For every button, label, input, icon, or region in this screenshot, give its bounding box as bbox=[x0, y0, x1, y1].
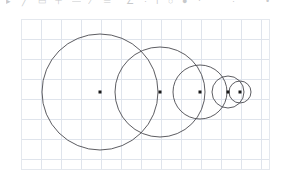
dot-tool-icon: · bbox=[144, 0, 147, 6]
line-tool-icon: ╱ bbox=[22, 0, 27, 6]
circle-tool-icon: ○ bbox=[168, 0, 173, 6]
rectangle-tool-icon: ▭ bbox=[38, 0, 47, 6]
bold-tool-icon: ● bbox=[182, 0, 187, 6]
select-tool-icon: ▸ bbox=[6, 0, 11, 6]
zoom-tool-icon: · bbox=[232, 0, 235, 6]
drawing-canvas[interactable] bbox=[21, 19, 270, 170]
angle-tool-icon: ∠ bbox=[126, 0, 134, 6]
grid-tool-icon: ⋅ bbox=[198, 0, 201, 6]
divide-tool-icon: ∕ bbox=[90, 0, 92, 6]
text-tool-icon: ı bbox=[156, 0, 159, 6]
toolbar[interactable]: ▸╱▭＋—∕═∠·ı○●⋅·• bbox=[0, 0, 289, 14]
toolbar-divider bbox=[0, 13, 289, 14]
minus-tool-icon: — bbox=[72, 0, 81, 6]
more-tool-icon: • bbox=[266, 0, 269, 6]
equals-tool-icon: ═ bbox=[104, 0, 110, 6]
canvas-grid bbox=[21, 19, 270, 170]
plus-tool-icon: ＋ bbox=[54, 0, 63, 6]
